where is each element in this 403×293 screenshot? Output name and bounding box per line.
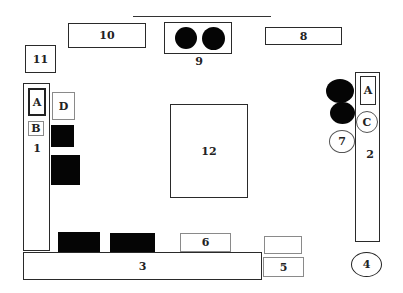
solid-block-left-lower [51, 155, 80, 185]
solid-circle-right-upper [326, 79, 354, 103]
circle-4-label: 4 [363, 258, 371, 271]
column-2-label: 2 [366, 149, 374, 160]
column-1-box-a: A [28, 88, 46, 116]
circle-7-label: 7 [338, 135, 346, 148]
solid-block-left-upper [51, 125, 74, 147]
column-1-box-b: B [28, 121, 44, 136]
box-11-label: 11 [33, 53, 48, 66]
column-2-box-a-label: A [364, 84, 373, 97]
circle-7: 7 [329, 130, 355, 153]
column-1-box-a-label: A [33, 96, 42, 109]
box-12-label: 12 [201, 145, 216, 158]
circle-c-label: C [363, 116, 372, 129]
box-8: 8 [265, 27, 342, 45]
box-unlabeled-above-5 [264, 236, 302, 254]
box-5: 5 [263, 257, 304, 277]
bar-3: 3 [23, 252, 262, 280]
box-d-label: D [59, 100, 69, 113]
box-6-label: 6 [202, 236, 210, 249]
top-wall-line [133, 16, 271, 17]
box-10-label: 10 [99, 29, 114, 42]
box-8-label: 8 [300, 30, 308, 43]
column-1-label: 1 [33, 143, 41, 154]
box-9-circle-left [175, 27, 197, 49]
box-d: D [52, 92, 75, 120]
box-11: 11 [25, 45, 56, 73]
solid-circle-right-lower [330, 102, 355, 124]
box-9-label: 9 [195, 56, 203, 67]
box-10: 10 [68, 23, 146, 48]
solid-block-bottom-right [110, 233, 155, 252]
box-9-circle-right [202, 27, 225, 50]
box-5-label: 5 [280, 261, 288, 274]
column-2-box-a: A [360, 76, 376, 105]
solid-block-bottom-left [58, 232, 100, 252]
circle-c: C [356, 111, 378, 133]
column-1-box-b-label: B [31, 122, 40, 135]
bar-3-label: 3 [139, 260, 147, 273]
circle-4: 4 [351, 252, 382, 277]
box-12: 12 [170, 104, 248, 198]
box-6: 6 [180, 233, 231, 252]
